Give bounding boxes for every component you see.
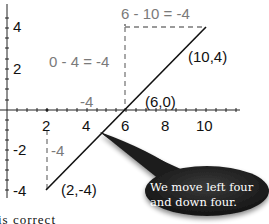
top-equation: 6 - 10 = -4 [121, 6, 190, 21]
x-tick-4: 4 [82, 118, 90, 133]
y-tick-neg2: -2 [13, 142, 26, 157]
caption-fragment: is correct [0, 212, 56, 224]
callout-line-1: We move left four [150, 180, 265, 195]
callout-text: We move left four and down four. [150, 180, 265, 210]
y-tick-4: 4 [13, 19, 21, 34]
point-label-2-neg4: (2,-4) [61, 182, 97, 197]
horizontal-run-label: -4 [80, 94, 93, 109]
slope-diagram: 4 2 -2 -4 2 4 6 8 10 6 - 10 = -4 0 - 4 =… [0, 0, 269, 224]
point-label-10-4: (10,4) [188, 49, 227, 64]
x-tick-8: 8 [161, 118, 169, 133]
x-tick-2: 2 [42, 118, 50, 133]
line-through-points [46, 27, 206, 190]
y-tick-2: 2 [13, 61, 21, 76]
point-label-6-0: (6,0) [145, 94, 176, 109]
y-axis [5, 4, 9, 198]
callout-line-2: and down four. [150, 195, 265, 210]
y-tick-neg4: -4 [13, 183, 26, 198]
middle-equation: 0 - 4 = -4 [49, 54, 109, 69]
x-tick-10: 10 [196, 118, 213, 133]
x-tick-6: 6 [121, 118, 129, 133]
x-axis [0, 108, 240, 112]
vertical-rise-label: -4 [51, 143, 64, 158]
